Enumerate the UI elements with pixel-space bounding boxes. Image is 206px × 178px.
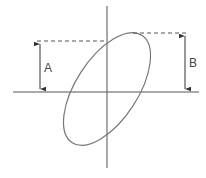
ellipse-diagram: A B	[0, 0, 206, 178]
b-label: B	[189, 56, 197, 70]
a-label: A	[44, 61, 52, 75]
